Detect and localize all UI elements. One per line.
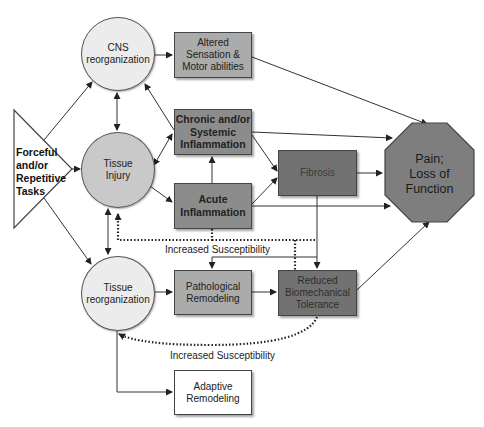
- chronic-inflammation-box: Chronic and/orSystemicInflammation: [174, 109, 252, 155]
- acute-inflammation-box: AcuteInflammation: [174, 183, 252, 229]
- edge-chronic-fibrosis: [252, 135, 277, 171]
- pain-label: Pain; Loss of Function: [385, 152, 474, 197]
- edge-acute-fibrosis: [252, 178, 277, 204]
- upper-susceptibility-label: Increased Susceptibility: [165, 244, 270, 255]
- reduced-tolerance-box: ReducedBiomechanicalTolerance: [278, 270, 357, 316]
- edge-injury-chronic: [154, 134, 172, 165]
- tissue-injury-node: TissueInjury: [81, 132, 155, 208]
- edge-reorg-adaptive: [117, 331, 172, 392]
- fibrosis-box: Fibrosis: [278, 150, 357, 196]
- dotted-reduced-reorg: [119, 317, 317, 345]
- edge-reduced-pain: [357, 222, 429, 290]
- pathological-remodeling-box: PathologicalRemodeling: [174, 270, 252, 315]
- adaptive-remodeling-box: AdaptiveRemodeling: [174, 370, 252, 415]
- edge-tasks-reorg: [44, 198, 91, 264]
- altered-sensation-box: AlteredSensation &Motor abilities: [174, 32, 252, 78]
- edge-chronic-pain: [252, 132, 392, 138]
- lower-susceptibility-label: Increased Susceptibility: [170, 350, 275, 361]
- edge-altered-pain: [252, 57, 427, 124]
- edge-tasks-cns: [44, 82, 92, 140]
- cns-reorganization-node: CNSreorganization: [81, 17, 155, 91]
- edge-injury-acute: [150, 186, 172, 202]
- edge-fibrosis-pathological: [212, 257, 317, 268]
- edge-chronic-cns: [145, 84, 174, 130]
- tissue-reorganization-node: Tissuereorganization: [81, 256, 155, 331]
- forceful-tasks-label: Forceful and/or Repetitive Tasks: [16, 146, 66, 199]
